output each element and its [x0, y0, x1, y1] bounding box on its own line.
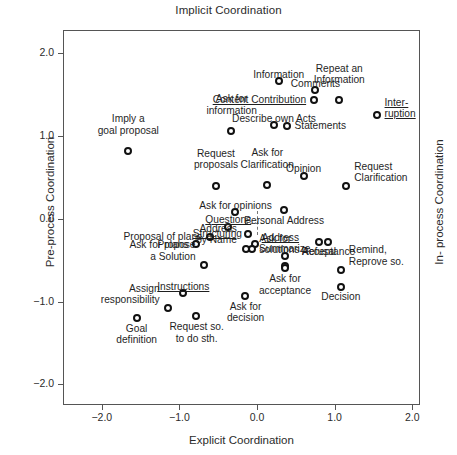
- data-point[interactable]: [133, 314, 141, 322]
- data-point[interactable]: [263, 181, 271, 189]
- data-point[interactable]: [242, 245, 250, 253]
- x-tick-mark: [412, 405, 413, 410]
- point-label: Ask for information: [206, 93, 256, 116]
- point-label: Address by Name: [196, 223, 237, 246]
- scatter-plot-figure: Implicit Coordination −2.0−1.00.01.02.0−…: [0, 0, 457, 455]
- y-tick-label: −2.0: [14, 377, 54, 389]
- y-tick-mark: [58, 302, 63, 303]
- y-tick-mark: [58, 219, 63, 220]
- y-tick-label: 2.0: [14, 46, 54, 58]
- x-tick-mark: [102, 405, 103, 410]
- point-label: Assign responsibility: [101, 283, 160, 306]
- x-tick-label: 1.0: [312, 411, 358, 423]
- point-label: Summarize: [259, 243, 311, 254]
- point-label: Personal Address: [244, 215, 324, 226]
- data-point[interactable]: [212, 182, 220, 190]
- point-label: Request Clarification: [354, 161, 407, 184]
- point-label: Goal definition: [116, 323, 157, 346]
- point-label: Remind, Reprove so.: [349, 244, 404, 267]
- data-point[interactable]: [337, 283, 345, 291]
- data-point[interactable]: [124, 147, 132, 155]
- y-axis-title: Pre-process Coordination: [44, 92, 56, 312]
- point-label: Ask for decision: [227, 301, 264, 324]
- x-tick-label: 0.0: [234, 411, 280, 423]
- point-label: Propose a Solution: [150, 239, 195, 262]
- point-label: Instructions: [157, 281, 209, 292]
- x-tick-mark: [335, 405, 336, 410]
- point-label: Repeat an Information: [314, 63, 365, 86]
- y-tick-mark: [58, 136, 63, 137]
- x-tick-label: 2.0: [389, 411, 435, 423]
- point-label: Inter- ruption: [385, 97, 416, 120]
- x-tick-mark: [257, 405, 258, 410]
- point-label: Statements: [295, 120, 347, 131]
- data-point[interactable]: [244, 230, 252, 238]
- data-point[interactable]: [337, 266, 345, 274]
- y-axis-title-right: In- process Coordination: [433, 92, 445, 312]
- point-label: Decision: [321, 291, 360, 302]
- x-tick-label: −1.0: [156, 411, 202, 423]
- y-tick-mark: [58, 384, 63, 385]
- point-label: Ask for Clarification: [241, 147, 294, 170]
- point-label: Ask for acceptance: [259, 273, 311, 296]
- data-point[interactable]: [310, 96, 318, 104]
- x-tick-mark: [179, 405, 180, 410]
- y-tick-mark: [58, 53, 63, 54]
- point-label: Imply a goal proposal: [98, 113, 159, 136]
- data-point[interactable]: [164, 304, 172, 312]
- point-label: Request proposals: [194, 148, 238, 171]
- x-tick-label: −2.0: [79, 411, 125, 423]
- data-point[interactable]: [315, 238, 323, 246]
- point-label: Request so. to do sth.: [169, 321, 223, 344]
- chart-title: Implicit Coordination: [0, 4, 457, 16]
- x-axis-title: Explicit Coordination: [63, 434, 420, 446]
- point-label: Ask for opinions: [199, 200, 271, 211]
- data-point[interactable]: [373, 111, 381, 119]
